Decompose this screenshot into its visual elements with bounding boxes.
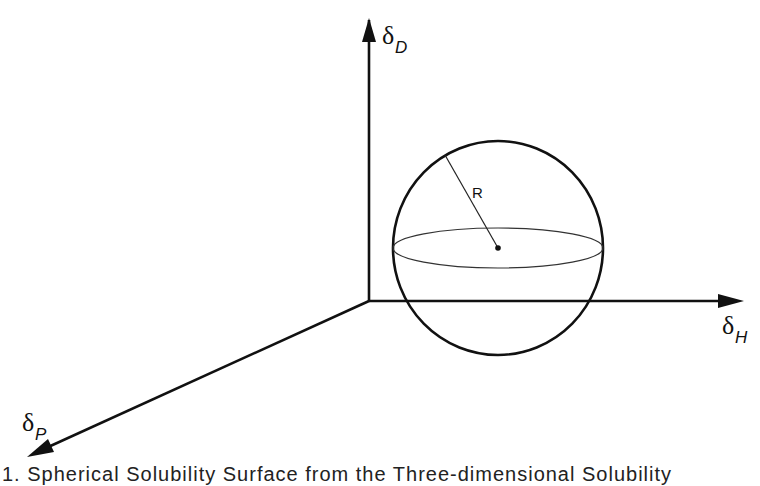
sphere-center-dot — [495, 245, 501, 251]
axis-p-symbol: δ — [22, 408, 34, 437]
axis-p: δ P — [22, 301, 369, 457]
axis-d-subscript: D — [395, 38, 407, 57]
axis-h-symbol: δ — [722, 311, 734, 340]
axis-d: δ D — [362, 18, 407, 301]
radius-label: R — [472, 184, 483, 201]
axis-h: δ H — [369, 294, 748, 347]
arrowhead-right-icon — [718, 294, 744, 308]
solubility-sphere: R — [393, 141, 603, 355]
figure-caption: 1. Spherical Solubility Surface from the… — [2, 463, 672, 486]
arrowhead-up-icon — [362, 18, 376, 42]
axis-d-symbol: δ — [382, 21, 394, 50]
axis-p-subscript: P — [35, 425, 47, 444]
radius-line — [445, 155, 498, 248]
axis-h-subscript: H — [735, 328, 748, 347]
